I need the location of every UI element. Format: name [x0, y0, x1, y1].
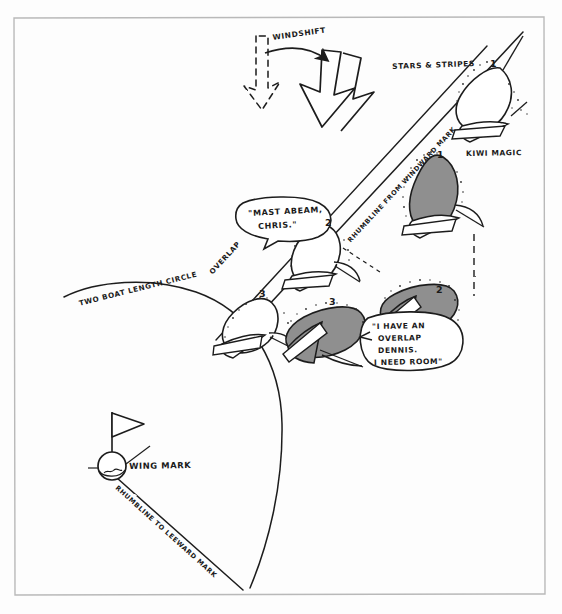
- boat-stars-stripes-position-1: [452, 36, 528, 142]
- new-wind-solid-arrow: [300, 50, 374, 131]
- rhumbline-to-leeward-mark-line: [108, 470, 243, 590]
- old-wind-dashed-arrow: [244, 36, 280, 110]
- windshift-curved-arrow: [265, 48, 327, 60]
- wing-mark-flag: [112, 413, 144, 437]
- boat-kiwi-magic-position-1: [402, 151, 484, 238]
- sailing-diagram-svg: [0, 0, 562, 614]
- ink-layer: [64, 32, 528, 590]
- diagram-canvas: WINDSHIFT STARS & STRIPES KIWI MAGIC RHU…: [0, 0, 562, 614]
